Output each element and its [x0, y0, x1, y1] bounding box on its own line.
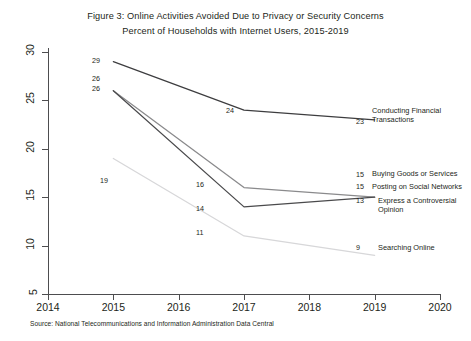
series-line-buying-goods-or-services [113, 91, 374, 207]
series-caption-searching: Searching Online [378, 243, 435, 252]
point-label-searching-2019: 9 [356, 243, 360, 252]
series-line-conducting-financial-transactions [113, 62, 374, 120]
source-note: Source: National Telecommunications and … [30, 320, 274, 327]
point-label-searching-2017: 11 [196, 228, 203, 237]
point-label-social-2017: 16 [196, 180, 204, 189]
point-label-financial-2019: 23 [356, 117, 364, 126]
series-caption-buying: Buying Goods or Services [372, 169, 457, 178]
point-label-buying-2017: 14 [196, 204, 204, 213]
series-caption-express: Express a Controversial Opinion [378, 196, 456, 214]
point-label-searching-2015: 19 [100, 176, 108, 185]
point-label-buying-2019: 15 [356, 170, 364, 179]
plot-area: 51015202530 2014201520162017201820192020… [0, 0, 471, 341]
chart-figure: Figure 3: Online Activities Avoided Due … [0, 0, 471, 341]
point-label-express-2019: 13 [356, 196, 364, 205]
point-label-social-2019: 15 [356, 182, 364, 191]
series-caption-financial: Conducting Financial Transactions [372, 106, 441, 124]
point-label-social-2015: 26 [92, 74, 100, 83]
point-label-financial-2015: 29 [92, 56, 100, 65]
point-label-financial-2017: 24 [226, 106, 234, 115]
series-caption-social: Posting on Social Networks [372, 182, 462, 191]
point-label-buying-2015: 26 [92, 84, 100, 93]
